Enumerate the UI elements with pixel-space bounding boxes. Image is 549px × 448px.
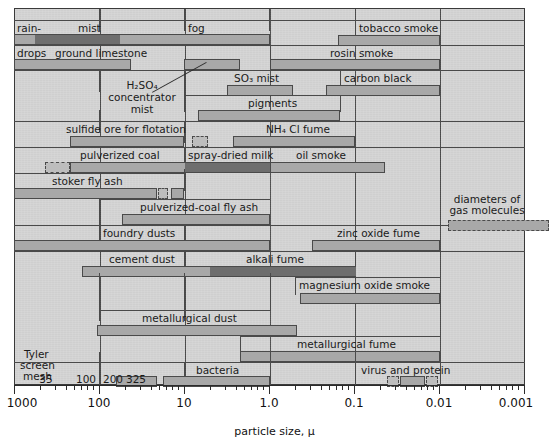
tick-minor bbox=[465, 385, 466, 390]
tick-minor bbox=[342, 385, 343, 390]
bar-sulfide-ore bbox=[70, 136, 184, 147]
label-metallurgical-dust: metallurgical dust bbox=[142, 312, 237, 324]
tick-minor bbox=[518, 385, 519, 390]
label-spray-dried-milk: spray-dried milk bbox=[188, 149, 273, 161]
bar-segment-mist bbox=[35, 35, 120, 44]
tick-minor bbox=[329, 385, 330, 390]
axis-label-10: 10 bbox=[176, 396, 191, 410]
x-axis-unit: μ bbox=[308, 425, 315, 438]
rule-tobacco-top bbox=[355, 20, 440, 21]
mesh-number-35: 35 bbox=[39, 373, 52, 385]
rule-row12-left bbox=[295, 277, 296, 295]
tick-minor bbox=[491, 385, 492, 390]
rule-tobacco-left bbox=[355, 20, 356, 36]
label-nh4cl-fume: NH₄ Cl fume bbox=[266, 123, 330, 135]
label-fog: fog bbox=[188, 22, 205, 34]
rule-row9-top bbox=[99, 199, 270, 200]
rule-row15-d bbox=[355, 352, 356, 385]
bar-stoker-fly-ash bbox=[14, 188, 157, 199]
tick-major-100 bbox=[99, 385, 100, 394]
bar-zinc-oxide-fume bbox=[312, 240, 440, 251]
bar-stoker-fly-ash-dash1 bbox=[158, 188, 168, 199]
mesh-number-200: 200 bbox=[103, 373, 123, 385]
bar-segment-alkali-fume bbox=[210, 267, 356, 276]
tick-minor bbox=[295, 385, 296, 390]
label-pulverized-coal-fly-ash: pulverized-coal fly ash bbox=[140, 201, 258, 213]
label-drops: drops bbox=[17, 47, 46, 59]
rule-row13-a bbox=[99, 273, 100, 321]
rule-row0-fog bbox=[184, 9, 185, 31]
tick-major-1000 bbox=[14, 385, 15, 394]
bar-ground-limestone bbox=[14, 59, 131, 70]
tick-minor bbox=[421, 385, 422, 390]
bar-segment-spray-dried-milk bbox=[185, 163, 271, 172]
tick-minor bbox=[140, 385, 141, 390]
rule-carbon-left bbox=[340, 70, 341, 86]
tick-minor bbox=[74, 385, 75, 390]
bar-pigments bbox=[198, 110, 340, 121]
label-oil-smoke: oil smoke bbox=[296, 149, 346, 161]
label-rosin-smoke: rosin smoke bbox=[330, 47, 393, 59]
tick-minor bbox=[427, 385, 428, 390]
tick-minor bbox=[499, 385, 500, 390]
label-alkali-fume: alkali fume bbox=[246, 253, 304, 265]
tick-minor bbox=[480, 385, 481, 390]
tick-major-0p1 bbox=[354, 385, 355, 394]
tick-minor bbox=[263, 385, 264, 390]
tick-minor bbox=[506, 385, 507, 390]
axis-label-1000: 1000 bbox=[7, 396, 38, 410]
label-ground-limestone: ground limestone bbox=[55, 47, 147, 59]
tick-minor bbox=[87, 385, 88, 390]
rule-row0-right bbox=[269, 9, 270, 31]
bar-gas-molecules bbox=[448, 220, 549, 231]
tick-minor bbox=[395, 385, 396, 390]
tick-minor bbox=[244, 385, 245, 390]
label-rain: rain- bbox=[17, 22, 41, 34]
rule-row3-top bbox=[14, 70, 525, 71]
rule-row3-b bbox=[184, 70, 185, 112]
label-magnesium-oxide-smoke: magnesium oxide smoke bbox=[299, 279, 430, 291]
axis-label-0p001: 0.001 bbox=[499, 396, 533, 410]
tick-minor bbox=[178, 385, 179, 390]
tick-minor bbox=[66, 385, 67, 390]
tick-minor bbox=[125, 385, 126, 390]
bar-pulverized-coal-dashed-head bbox=[45, 162, 70, 173]
bar-oil-smoke bbox=[270, 162, 385, 173]
x-axis-title-text: particle size, bbox=[234, 425, 307, 438]
tick-minor bbox=[257, 385, 258, 390]
axis-label-1: 1.0 bbox=[259, 396, 278, 410]
tick-minor bbox=[348, 385, 349, 390]
label-carbon-black: carbon black bbox=[344, 72, 411, 84]
x-axis-title: particle size, μ bbox=[0, 425, 549, 438]
tick-minor bbox=[93, 385, 94, 390]
rule-rosin-left bbox=[270, 45, 271, 59]
mesh-number-100: 100 bbox=[76, 373, 96, 385]
particle-size-chart: rain- mist fog tobacco smoke drops groun… bbox=[0, 0, 549, 448]
tick-minor bbox=[151, 385, 152, 390]
rule-row3-a bbox=[99, 70, 100, 92]
rule-row8-top bbox=[14, 173, 184, 174]
label-virus-and-protein: virus and protein bbox=[361, 364, 450, 376]
tick-minor bbox=[159, 385, 160, 390]
tick-minor bbox=[380, 385, 381, 390]
axis-label-0p1: 0.1 bbox=[344, 396, 363, 410]
label-h2so4-line3: mist bbox=[102, 104, 182, 116]
tick-minor bbox=[210, 385, 211, 390]
rule-rosin-top bbox=[270, 45, 440, 46]
tick-minor bbox=[40, 385, 41, 390]
bar-magnesium-oxide-smoke bbox=[300, 293, 440, 304]
axis-label-0p01: 0.01 bbox=[426, 396, 453, 410]
bar-pulverized-coal-fly-ash bbox=[122, 214, 270, 225]
rule-row13-c bbox=[270, 273, 271, 311]
rule-row6-top bbox=[14, 121, 525, 122]
rule-row6-c bbox=[355, 121, 356, 143]
tick-minor bbox=[55, 385, 56, 390]
label-cement-dust: cement dust bbox=[109, 253, 175, 265]
rule-row15-a bbox=[99, 352, 100, 385]
bar-rosin-smoke bbox=[270, 59, 440, 70]
bar-cement-dust bbox=[82, 266, 355, 277]
label-sulfide-ore: sulfide ore for flotation bbox=[66, 123, 186, 135]
tick-minor bbox=[406, 385, 407, 390]
tick-minor bbox=[321, 385, 322, 390]
tick-minor bbox=[336, 385, 337, 390]
